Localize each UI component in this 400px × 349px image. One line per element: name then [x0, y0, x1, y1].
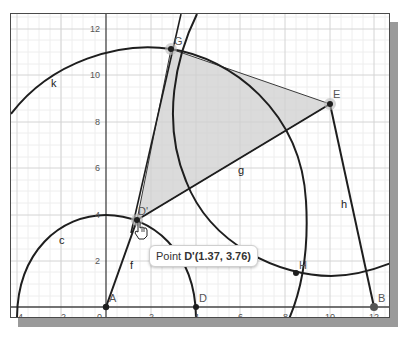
y-tick-10: 10 [90, 70, 100, 80]
tooltip-prefix: Point [156, 250, 184, 262]
x-tick-10: 10 [325, 312, 335, 318]
x-tick-6: 6 [238, 312, 243, 318]
label-b: B [378, 292, 385, 304]
y-tick-8: 8 [95, 117, 100, 127]
x-tick-12: 12 [369, 312, 379, 318]
label-h: H [299, 259, 307, 271]
point-e[interactable] [327, 101, 333, 107]
y-tick-4: 4 [95, 210, 100, 220]
x-tick-4: 4 [194, 312, 199, 318]
x-tick-neg2: -2 [58, 312, 66, 318]
geometry-canvas[interactable]: -4 -2 0 2 4 6 8 10 12 2 4 6 8 10 12 G E … [11, 14, 390, 318]
tooltip-coords: (1.37, 3.76) [195, 250, 251, 262]
point-b[interactable] [370, 303, 378, 311]
y-tick-6: 6 [95, 163, 100, 173]
x-tick-8: 8 [283, 312, 288, 318]
label-c: c [59, 234, 65, 246]
label-d-prime: D' [138, 205, 148, 217]
point-tooltip: Point D'(1.37, 3.76) [149, 245, 258, 267]
label-d: D [199, 292, 207, 304]
tooltip-point-name: D' [184, 250, 195, 262]
label-k: k [51, 77, 57, 89]
x-tick-neg4: -4 [15, 312, 23, 318]
x-tick-0: 0 [97, 312, 102, 318]
point-d[interactable] [193, 304, 199, 310]
label-a: A [109, 292, 117, 304]
point-a[interactable] [103, 304, 109, 310]
y-tick-2: 2 [95, 256, 100, 266]
label-g: G [174, 35, 183, 47]
y-tick-12: 12 [90, 24, 100, 34]
label-g-segment: g [238, 164, 244, 176]
label-h-segment: h [341, 198, 347, 210]
label-e: E [333, 88, 340, 100]
graphics-view[interactable]: -4 -2 0 2 4 6 8 10 12 2 4 6 8 10 12 G E … [10, 13, 390, 318]
x-tick-2: 2 [149, 312, 154, 318]
